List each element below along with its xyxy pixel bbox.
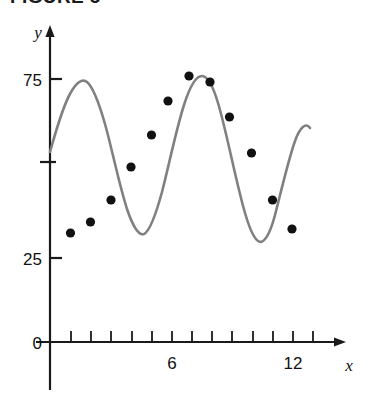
x-tick-label-6: 6	[167, 354, 176, 373]
data-point	[225, 112, 234, 121]
data-point	[287, 224, 296, 233]
data-point	[163, 96, 172, 105]
figure-container: FIGURE 5	[0, 0, 376, 401]
x-axis-label: x	[344, 356, 353, 375]
x-axis-arrow-icon	[334, 337, 346, 346]
x-tick-label-12: 12	[284, 354, 303, 373]
y-axis-arrow-icon	[45, 25, 54, 37]
data-point	[268, 195, 277, 204]
y-tick-label-25: 25	[23, 250, 42, 269]
scatter-points	[66, 71, 297, 237]
data-point	[184, 71, 193, 80]
y-tick-label-0: 0	[33, 334, 42, 353]
x-tick-marks	[71, 331, 313, 342]
data-point	[86, 217, 95, 226]
data-point	[106, 195, 115, 204]
data-point	[205, 77, 214, 86]
data-point	[147, 130, 156, 139]
model-curve	[50, 76, 310, 242]
y-tick-label-75: 75	[23, 71, 42, 90]
data-point	[126, 162, 135, 171]
data-point	[247, 148, 256, 157]
y-axis-label: y	[32, 23, 42, 42]
scatter-plot: 75 25 0 6 12 y x	[0, 0, 376, 401]
data-point	[66, 228, 75, 237]
